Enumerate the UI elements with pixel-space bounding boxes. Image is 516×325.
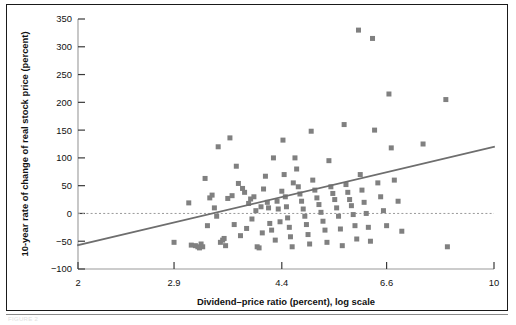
scatter-point <box>200 244 205 249</box>
scatter-point <box>296 184 301 189</box>
scatter-point <box>396 199 401 204</box>
x-tick-label: 6.6 <box>380 277 393 288</box>
scatter-point <box>273 238 278 243</box>
scatter-point <box>399 229 404 234</box>
scatter-point <box>378 194 383 199</box>
scatter-point <box>366 225 371 230</box>
scatter-point <box>349 203 354 208</box>
scatter-point <box>421 142 426 147</box>
scatter-point <box>214 214 219 219</box>
x-axis-ticks <box>78 262 494 269</box>
scatter-point <box>318 210 323 215</box>
scatter-point <box>309 129 314 134</box>
scatter-point <box>304 222 309 227</box>
scatter-point <box>222 236 227 241</box>
y-axis-tick-labels: −100−50050100150200250300350 <box>51 13 72 274</box>
scatter-point <box>278 219 283 224</box>
figure-caption-cropped: FIGURE 2 <box>8 316 38 322</box>
y-tick-label: 300 <box>56 41 72 52</box>
x-axis-tick-labels: 22.94.46.610 <box>75 277 499 288</box>
scatter-point <box>362 200 367 205</box>
y-tick-label: −50 <box>56 236 72 247</box>
scatter-point <box>225 196 230 201</box>
scatter-point <box>320 219 325 224</box>
figure-frame: −100−50050100150200250300350 22.94.46.61… <box>6 4 508 311</box>
y-tick-label: 50 <box>62 180 72 191</box>
scatter-point <box>269 228 274 233</box>
scatter-point <box>261 187 266 192</box>
scatter-point <box>381 208 386 213</box>
scatter-point <box>324 240 329 245</box>
scatter-point <box>445 244 450 249</box>
scatter-point <box>279 189 284 194</box>
x-axis-title: Dividend–price ratio (percent), log scal… <box>197 296 375 307</box>
scatter-point <box>253 208 258 213</box>
scatter-point <box>392 178 397 183</box>
scatter-point <box>236 181 241 186</box>
scatter-point <box>290 244 295 249</box>
y-tick-label: −100 <box>51 263 72 274</box>
scatter-point <box>334 205 339 210</box>
scatter-point <box>232 222 237 227</box>
scatter-point <box>345 190 350 195</box>
scatter-point <box>271 155 276 160</box>
scatter-point <box>275 199 280 204</box>
x-tick-label: 4.4 <box>275 277 288 288</box>
scatter-point <box>322 228 327 233</box>
scatter-point <box>340 243 345 248</box>
scatter-point <box>356 28 361 33</box>
scatter-point <box>386 92 391 97</box>
scatter-point <box>249 217 254 222</box>
scatter-point <box>372 128 377 133</box>
scatter-point <box>234 164 239 169</box>
scatter-point <box>276 207 281 212</box>
y-axis-ticks <box>78 19 85 269</box>
scatter-point <box>288 234 293 239</box>
caption-divider <box>6 314 508 315</box>
scatter-point <box>186 200 191 205</box>
scatter-point <box>282 172 287 177</box>
scatter-point <box>263 174 268 179</box>
scatter-point <box>205 223 210 228</box>
scatter-points-group <box>172 28 450 251</box>
scatter-point <box>316 202 321 207</box>
regression-trend-line <box>78 147 494 245</box>
scatter-point <box>216 144 221 149</box>
scatter-point <box>238 233 243 238</box>
scatter-point <box>223 243 228 248</box>
scatter-point <box>338 227 343 232</box>
scatter-point <box>443 97 448 102</box>
scatter-point <box>203 176 208 181</box>
scatter-point <box>292 155 297 160</box>
scatter-point <box>291 180 296 185</box>
y-tick-label: 150 <box>56 125 72 136</box>
scatter-point <box>259 204 264 209</box>
figure-container: −100−50050100150200250300350 22.94.46.61… <box>0 0 516 325</box>
scatter-point <box>389 145 394 150</box>
scatter-point <box>352 223 357 228</box>
scatter-point <box>310 178 315 183</box>
scatter-point <box>347 197 352 202</box>
scatter-point <box>330 191 335 196</box>
scatter-point <box>267 221 272 226</box>
scatter-chart: −100−50050100150200250300350 22.94.46.61… <box>7 5 509 312</box>
x-tick-label: 2 <box>75 277 80 288</box>
scatter-point <box>284 204 289 209</box>
scatter-point <box>326 158 331 163</box>
scatter-point <box>307 242 312 247</box>
y-tick-label: 0 <box>67 208 72 219</box>
scatter-point <box>336 214 341 219</box>
scatter-point <box>285 215 290 220</box>
scatter-point <box>287 225 292 230</box>
scatter-point <box>260 230 265 235</box>
scatter-point <box>294 167 299 172</box>
x-tick-label: 10 <box>489 277 499 288</box>
scatter-point <box>306 232 311 237</box>
scatter-point <box>227 135 232 140</box>
scatter-point <box>332 197 337 202</box>
scatter-point <box>375 180 380 185</box>
scatter-point <box>299 199 304 204</box>
scatter-point <box>172 240 177 245</box>
scatter-point <box>210 193 215 198</box>
scatter-point <box>368 239 373 244</box>
